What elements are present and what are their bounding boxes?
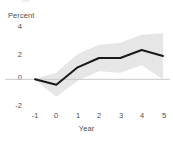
confidence-band [35,33,163,96]
plot-area [0,0,173,144]
chart-figure: Percent 4 2 0 -2 -1 0 1 2 3 4 5 Year [0,0,173,144]
